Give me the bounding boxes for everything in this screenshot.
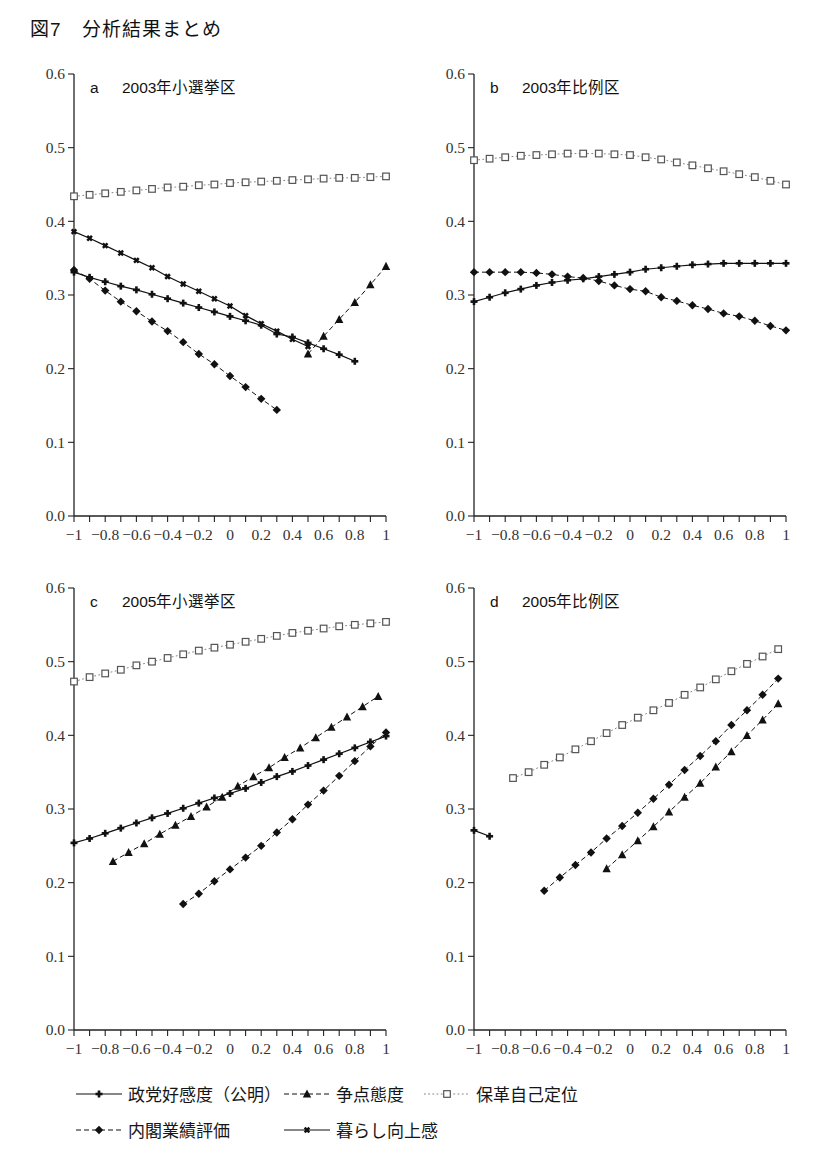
series-d-1 bbox=[540, 674, 782, 895]
x-tick-label: 1 bbox=[782, 526, 790, 543]
axes-a: 0.00.10.20.30.40.50.6−1−0.8−0.6−0.4−0.20… bbox=[46, 65, 390, 543]
x-tick-label: −0.8 bbox=[91, 1040, 119, 1057]
y-tick-label: 0.5 bbox=[46, 653, 66, 670]
x-tick-label: 0.6 bbox=[314, 1040, 334, 1057]
series-a-0 bbox=[71, 173, 390, 199]
x-tick-label: 0.8 bbox=[345, 526, 365, 543]
y-tick-label: 0.3 bbox=[46, 286, 66, 303]
series-d-0 bbox=[510, 646, 782, 782]
series-c-2 bbox=[71, 733, 390, 847]
x-tick-label: −1 bbox=[66, 526, 83, 543]
y-tick-label: 0.2 bbox=[446, 874, 465, 891]
series-a-2 bbox=[71, 269, 359, 365]
x-tick-label: 1 bbox=[382, 1040, 390, 1057]
x-tick-label: 0 bbox=[626, 526, 634, 543]
x-tick-label: −0.6 bbox=[522, 526, 550, 543]
x-tick-label: −0.2 bbox=[585, 1040, 613, 1057]
x-tick-label: −0.2 bbox=[185, 1040, 213, 1057]
x-tick-label: −1 bbox=[466, 526, 483, 543]
series-c-1 bbox=[109, 692, 383, 865]
axes-d: 0.00.10.20.30.40.50.6−1−0.8−0.6−0.4−0.20… bbox=[446, 579, 790, 1057]
x-tick-label: −0.4 bbox=[154, 1040, 182, 1057]
figure-title: 図7 分析結果まとめ bbox=[30, 14, 222, 41]
legend-item: 政党好感度（公明） bbox=[76, 1086, 281, 1105]
x-tick-label: 0.6 bbox=[314, 526, 334, 543]
chart-b: 0.00.10.20.30.40.50.6−1−0.8−0.6−0.4−0.20… bbox=[428, 58, 800, 558]
series-d-2 bbox=[602, 699, 782, 872]
chart-legend: 政党好感度（公明）争点態度保革自己定位内閣業績評価暮らし向上感 bbox=[0, 1070, 827, 1162]
y-tick-label: 0.5 bbox=[446, 139, 466, 156]
y-tick-label: 0.6 bbox=[46, 65, 66, 82]
x-tick-label: 0 bbox=[226, 1040, 234, 1057]
y-tick-label: 0.1 bbox=[446, 434, 465, 451]
panel-title: 2005年小選挙区 bbox=[122, 593, 236, 610]
legend-svg: 政党好感度（公明）争点態度保革自己定位内閣業績評価暮らし向上感 bbox=[0, 1070, 827, 1162]
chart-d: 0.00.10.20.30.40.50.6−1−0.8−0.6−0.4−0.20… bbox=[428, 572, 800, 1072]
y-tick-label: 0.4 bbox=[46, 213, 66, 230]
legend-item: 保革自己定位 bbox=[424, 1086, 578, 1105]
y-tick-label: 0.5 bbox=[446, 653, 466, 670]
y-tick-label: 0.3 bbox=[46, 800, 66, 817]
chart-a: 0.00.10.20.30.40.50.6−1−0.8−0.6−0.4−0.20… bbox=[28, 58, 400, 558]
panel-letter: c bbox=[90, 593, 98, 610]
y-tick-label: 0.6 bbox=[46, 579, 66, 596]
panel-letter: d bbox=[490, 593, 499, 610]
x-tick-label: 0.8 bbox=[745, 1040, 765, 1057]
panel-letter: a bbox=[90, 79, 99, 96]
x-tick-label: −0.8 bbox=[91, 526, 119, 543]
series-a-4 bbox=[304, 262, 390, 358]
x-tick-label: 0.6 bbox=[714, 1040, 734, 1057]
x-tick-label: −0.2 bbox=[185, 526, 213, 543]
y-tick-label: 0.2 bbox=[446, 360, 465, 377]
x-tick-label: 0.2 bbox=[652, 1040, 671, 1057]
y-tick-label: 0.0 bbox=[46, 1021, 66, 1038]
y-tick-label: 0.4 bbox=[46, 727, 66, 744]
series-b-1 bbox=[471, 260, 790, 305]
y-tick-label: 0.2 bbox=[46, 360, 65, 377]
x-tick-label: 0.4 bbox=[683, 1040, 703, 1057]
x-tick-label: 0.4 bbox=[683, 526, 703, 543]
panel-d-2005-pr: 0.00.10.20.30.40.50.6−1−0.8−0.6−0.4−0.20… bbox=[428, 572, 800, 1072]
x-tick-label: −0.6 bbox=[122, 526, 150, 543]
x-tick-label: −0.4 bbox=[154, 526, 182, 543]
y-tick-label: 0.4 bbox=[446, 213, 466, 230]
x-tick-label: 0.2 bbox=[252, 526, 271, 543]
y-tick-label: 0.2 bbox=[46, 874, 65, 891]
series-a-3 bbox=[70, 266, 281, 414]
y-tick-label: 0.6 bbox=[446, 65, 466, 82]
x-tick-label: −0.8 bbox=[491, 1040, 519, 1057]
x-tick-label: −1 bbox=[466, 1040, 483, 1057]
x-tick-label: −0.6 bbox=[122, 1040, 150, 1057]
x-tick-label: −0.4 bbox=[554, 526, 582, 543]
y-tick-label: 0.1 bbox=[46, 434, 65, 451]
panel-title: 2003年比例区 bbox=[522, 79, 620, 96]
legend-label: 暮らし向上感 bbox=[336, 1122, 438, 1141]
panel-b-2003-pr: 0.00.10.20.30.40.50.6−1−0.8−0.6−0.4−0.20… bbox=[428, 58, 800, 558]
panel-a-2003-smd: 0.00.10.20.30.40.50.6−1−0.8−0.6−0.4−0.20… bbox=[28, 58, 400, 558]
y-tick-label: 0.0 bbox=[446, 1021, 466, 1038]
x-tick-label: 0 bbox=[226, 526, 234, 543]
series-b-2 bbox=[470, 268, 790, 335]
legend-label: 争点態度 bbox=[336, 1086, 404, 1105]
x-tick-label: −0.6 bbox=[522, 1040, 550, 1057]
axes-b: 0.00.10.20.30.40.50.6−1−0.8−0.6−0.4−0.20… bbox=[446, 65, 790, 543]
panel-title: 2003年小選挙区 bbox=[122, 79, 236, 96]
y-tick-label: 0.5 bbox=[46, 139, 66, 156]
x-tick-label: −1 bbox=[66, 1040, 83, 1057]
x-tick-label: 0 bbox=[626, 1040, 634, 1057]
x-tick-label: 1 bbox=[382, 526, 390, 543]
y-tick-label: 0.3 bbox=[446, 286, 466, 303]
x-tick-label: 1 bbox=[782, 1040, 790, 1057]
x-tick-label: 0.2 bbox=[652, 526, 671, 543]
panel-letter: b bbox=[490, 79, 499, 96]
x-tick-label: −0.8 bbox=[491, 526, 519, 543]
x-tick-label: 0.4 bbox=[283, 1040, 303, 1057]
x-tick-label: 0.2 bbox=[252, 1040, 271, 1057]
legend-label: 内閣業績評価 bbox=[128, 1122, 230, 1141]
y-tick-label: 0.1 bbox=[446, 948, 465, 965]
x-tick-label: 0.8 bbox=[745, 526, 765, 543]
x-tick-label: −0.2 bbox=[585, 526, 613, 543]
y-tick-label: 0.0 bbox=[46, 507, 66, 524]
y-tick-label: 0.0 bbox=[446, 507, 466, 524]
panel-title: 2005年比例区 bbox=[522, 593, 620, 610]
